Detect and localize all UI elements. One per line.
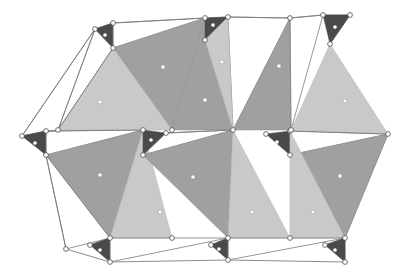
polyhedron-vertex (203, 38, 208, 43)
face-center-dot (338, 174, 342, 178)
face-center-dot (250, 210, 254, 214)
polyhedral-diagram (0, 0, 408, 280)
polyhedron-vertex (328, 42, 333, 47)
face-center-dot (98, 100, 102, 104)
polyhedron-vertex (93, 27, 98, 32)
face-center-dot (217, 247, 220, 250)
polyhedron-vertex (226, 258, 231, 263)
polyhedron-vertex (321, 13, 326, 18)
face-center-dot (343, 99, 347, 103)
polyhedron-vertex (323, 243, 328, 248)
polyhedron-vertex (203, 16, 208, 21)
polyhedron-vertex (111, 21, 116, 26)
polyhedron-vertex (288, 236, 293, 241)
face-center-dot (161, 65, 165, 69)
polyhedron-vertex (226, 236, 231, 241)
polyhedron-vertex (170, 128, 175, 133)
polyhedron-vertex (231, 128, 236, 133)
face-center-dot (333, 248, 336, 251)
polyhedron-vertex (108, 236, 113, 241)
face-center-dot (275, 140, 278, 143)
face-center-dot (191, 175, 195, 179)
face-center-dot (277, 64, 281, 68)
face-center-dot (311, 210, 315, 214)
figure-canvas (0, 0, 408, 280)
face-center-dot (158, 210, 162, 214)
polyhedron-vertex (288, 16, 293, 21)
polyhedron-vertex (386, 132, 391, 137)
face-center-dot (103, 33, 106, 36)
polyhedron-vertex (343, 260, 348, 265)
face-center-dot (149, 138, 152, 141)
polyhedron-vertex (111, 46, 116, 51)
polyhedron-vertex (64, 247, 69, 252)
polyhedron-vertex (44, 129, 49, 134)
face-center-dot (98, 173, 102, 177)
polyhedron-vertex (209, 243, 214, 248)
polyhedron-vertex (108, 260, 113, 265)
polyhedron-vertex (289, 128, 294, 133)
face-center-dot (333, 25, 336, 28)
face-center-dot (203, 98, 207, 102)
polyhedron-vertex (44, 153, 49, 158)
polyhedron-vertex (164, 131, 169, 136)
polyhedron-vertex (288, 153, 293, 158)
polyhedron-vertex (226, 15, 231, 20)
polyhedron-vertex (141, 153, 146, 158)
face-center-dot (98, 248, 101, 251)
polyhedron-vertex (141, 128, 146, 133)
polyhedron-vertex (170, 236, 175, 241)
face-center-dot (220, 60, 224, 64)
polyhedron-vertex (343, 236, 348, 241)
polyhedron-vertex (264, 132, 269, 137)
polyhedron-vertex (56, 128, 61, 133)
face-center-dot (211, 23, 214, 26)
polyhedron-vertex (20, 134, 25, 139)
face-center-dot (33, 141, 36, 144)
polyhedron-vertex (88, 243, 93, 248)
polyhedron-vertex (348, 13, 353, 18)
